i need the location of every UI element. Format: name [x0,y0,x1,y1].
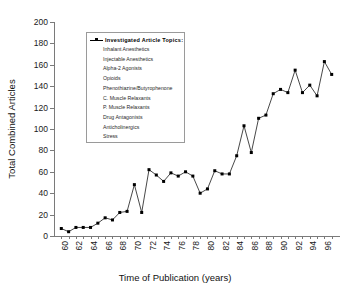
x-tick-label: 94 [309,241,318,250]
x-tick-mark [222,236,223,239]
x-tick-mark [105,236,106,239]
data-point-marker [140,211,143,214]
y-tick-label: 80 [39,146,48,155]
data-point-marker [286,91,289,94]
x-tick-mark [69,236,70,239]
data-point-marker [104,216,107,219]
x-tick-label: 96 [324,241,333,250]
x-tick-mark [61,236,62,239]
x-tick-mark [244,236,245,239]
data-point-marker [316,94,319,97]
data-point-marker [308,84,311,87]
x-tick-label: 76 [177,241,186,250]
x-tick-mark [332,236,333,239]
y-tick-label: 180 [34,39,48,48]
legend-entry: Opioids [90,74,181,84]
x-tick-mark [149,236,150,239]
x-tick-mark [295,236,296,239]
x-tick-label: 90 [280,241,289,250]
x-tick-label: 84 [236,241,245,250]
data-point-marker [169,171,172,174]
y-tick-label: 200 [34,18,48,27]
legend-entry: Phenothiazine/Butyrophenone [90,84,181,94]
x-tick-mark [281,236,282,239]
legend-entry: Injectable Anesthetics [90,55,181,65]
x-tick-mark [237,236,238,239]
data-point-marker [221,172,224,175]
data-point-marker [250,151,253,154]
x-tick-label: 68 [119,241,128,250]
x-tick-mark [171,236,172,239]
x-tick-mark [302,236,303,239]
legend-entry: Drug Antagonists [90,113,181,123]
x-tick-label: 78 [192,241,201,250]
x-tick-mark [259,236,260,239]
legend-entry-list: Inhalant AnestheticsInjectable Anestheti… [90,45,181,142]
x-tick-mark [156,236,157,239]
x-tick-mark [186,236,187,239]
data-point-marker [148,168,151,171]
data-point-marker [118,211,121,214]
legend-entry: Stress [90,132,181,142]
y-tick-label: 140 [34,82,48,91]
x-tick-mark [288,236,289,239]
data-point-marker [155,174,158,177]
x-tick-mark [317,236,318,239]
legend-entry: Anticholinergics [90,123,181,133]
x-tick-mark [142,236,143,239]
x-tick-label: 62 [75,241,84,250]
x-tick-label: 64 [90,241,99,250]
x-tick-label: 72 [148,241,157,250]
x-tick-mark [134,236,135,239]
data-point-marker [89,226,92,229]
data-point-marker [235,154,238,157]
x-tick-label: 92 [294,241,303,250]
data-point-marker [67,230,70,233]
chart-figure: Total Combined Articles 0204060801001201… [0,0,350,290]
data-point-marker [199,192,202,195]
data-point-marker [243,124,246,127]
x-tick-mark [207,236,208,239]
x-tick-mark [120,236,121,239]
x-tick-mark [310,236,311,239]
x-tick-mark [83,236,84,239]
data-point-marker [82,226,85,229]
data-point-marker [126,210,129,213]
data-point-marker [191,175,194,178]
data-point-marker [96,222,99,225]
legend-box: Investigated Article Topics: Inhalant An… [86,32,185,143]
x-tick-label: 60 [61,241,70,250]
data-point-marker [60,227,63,230]
data-point-marker [74,226,77,229]
y-tick-label: 160 [34,61,48,70]
x-tick-mark [193,236,194,239]
data-point-marker [330,73,333,76]
y-tick-label: 0 [43,232,48,241]
y-tick-label: 60 [39,168,48,177]
x-tick-label: 74 [163,241,172,250]
x-tick-label: 80 [207,241,216,250]
data-point-marker [264,114,267,117]
x-tick-mark [127,236,128,239]
legend-entry: C. Muscle Relaxants [90,94,181,104]
legend-entry: P. Muscle Relaxants [90,103,181,113]
data-point-marker [272,92,275,95]
data-point-marker [213,169,216,172]
x-tick-mark [98,236,99,239]
x-tick-mark [229,236,230,239]
x-tick-label: 86 [251,241,260,250]
x-tick-mark [76,236,77,239]
x-tick-label: 70 [134,241,143,250]
data-point-marker [206,187,209,190]
y-tick-label: 40 [39,189,48,198]
x-tick-mark [324,236,325,239]
legend-marker-icon [90,37,103,43]
data-point-marker [257,117,260,120]
x-axis-title: Time of Publication (years) [0,272,350,283]
y-tick-label: 100 [34,125,48,134]
data-point-marker [228,172,231,175]
y-tick-label: 20 [39,210,48,219]
x-tick-mark [215,236,216,239]
data-point-marker [162,180,165,183]
y-axis-title: Total Combined Articles [6,79,17,178]
